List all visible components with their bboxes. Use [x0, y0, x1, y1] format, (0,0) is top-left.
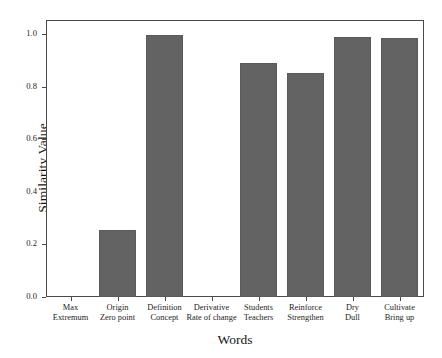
y-axis-tick-mark	[42, 192, 46, 193]
y-axis-tick-label: 0.2	[26, 238, 37, 248]
bar[interactable]	[240, 63, 278, 297]
y-axis-tick-mark	[42, 87, 46, 88]
bar[interactable]	[99, 230, 137, 297]
x-axis-tick-mark	[212, 297, 213, 301]
bar-slot	[381, 21, 419, 297]
x-axis-category-line1: Cultivate	[369, 303, 430, 313]
bar-slot	[193, 21, 231, 297]
x-axis-tick-mark	[353, 297, 354, 301]
bar-slot	[146, 21, 184, 297]
y-axis-tick-label: 0.0	[26, 291, 37, 301]
x-axis-tick-mark	[400, 297, 401, 301]
bars-area	[47, 21, 423, 297]
y-axis-tick-label: 0.8	[26, 81, 37, 91]
x-axis-category-label: CultivateBring up	[369, 303, 430, 323]
bar-slot	[99, 21, 137, 297]
y-axis-tick-label: 1.0	[26, 28, 37, 38]
x-axis-tick-mark	[165, 297, 166, 301]
y-axis-tick-label: 0.6	[26, 133, 37, 143]
x-axis-category-line2: Bring up	[369, 313, 430, 323]
y-axis-tick-mark	[42, 244, 46, 245]
x-axis-tick-mark	[306, 297, 307, 301]
x-axis-tick-mark	[118, 297, 119, 301]
y-axis-tick-mark	[42, 139, 46, 140]
bar[interactable]	[381, 38, 419, 297]
y-axis-tick-mark	[42, 297, 46, 298]
x-axis-tick-mark	[259, 297, 260, 301]
bar-slot	[287, 21, 325, 297]
bar-slot	[52, 21, 90, 297]
bar[interactable]	[287, 73, 325, 297]
y-axis-tick-label: 0.4	[26, 186, 37, 196]
bar-slot	[334, 21, 372, 297]
bar[interactable]	[334, 37, 372, 297]
x-axis-title: Words	[45, 332, 425, 348]
x-axis-tick-mark	[71, 297, 72, 301]
bar-chart: Similarity Value 0.00.20.40.60.81.0 MaxE…	[0, 0, 442, 358]
bar[interactable]	[146, 35, 184, 297]
y-axis-tick-mark	[42, 34, 46, 35]
bar-slot	[240, 21, 278, 297]
